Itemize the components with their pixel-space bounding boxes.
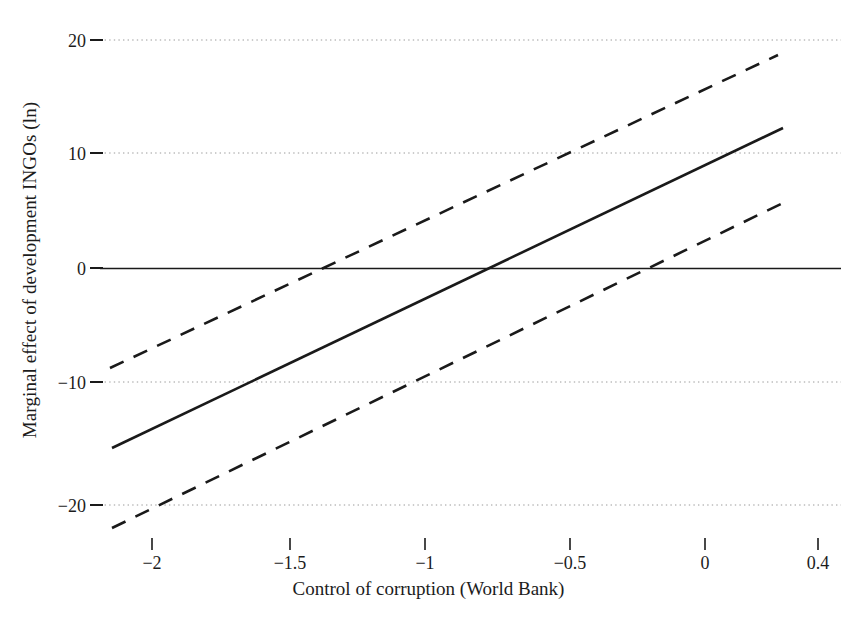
gridlines <box>100 40 841 505</box>
x-axis-title: Control of corruption (World Bank) <box>0 578 857 600</box>
x-tick-label-0: 0 <box>675 553 735 574</box>
x-tick-label-minus-1-5: −1.5 <box>260 553 320 574</box>
y-tick-marks <box>90 40 103 505</box>
x-tick-label-minus-0-5: −0.5 <box>540 553 600 574</box>
x-tick-label-minus-2: −2 <box>122 553 182 574</box>
marginal-effect-line <box>112 128 783 448</box>
lower-confidence-bound-line <box>112 203 783 528</box>
chart-figure: 20 10 0 −10 −20 −2 −1.5 −1 −0.5 0 0.4 Ma… <box>0 0 857 632</box>
y-axis-title-wrapper: Marginal effect of development INGOs (ln… <box>0 0 60 540</box>
x-tick-label-0-4: 0.4 <box>788 553 848 574</box>
x-tick-marks <box>152 538 818 550</box>
x-tick-label-minus-1: −1 <box>395 553 455 574</box>
marginal-effect-plot <box>0 0 857 632</box>
y-axis-title: Marginal effect of development INGOs (ln… <box>19 102 41 438</box>
upper-confidence-bound-line <box>110 55 778 368</box>
